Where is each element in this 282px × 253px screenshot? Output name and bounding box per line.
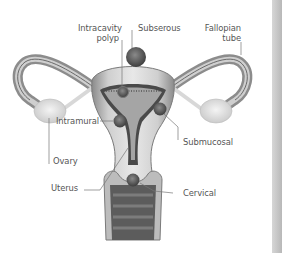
intracavity-polyp-fibroid	[118, 87, 129, 98]
anatomy-illustration: Intracavity polyp Subserous Fallopian tu…	[0, 0, 271, 253]
submucosal-fibroid	[154, 103, 167, 116]
label-subserous: Subserous	[138, 24, 181, 34]
label-intramural: Intramural	[56, 117, 99, 127]
label-intracavity-polyp: Intracavity polyp	[78, 24, 119, 43]
vagina	[110, 185, 156, 240]
label-fallopian-tube: Fallopian tube	[196, 24, 241, 43]
cervical-fibroid	[127, 174, 140, 187]
label-uterus: Uterus	[51, 184, 78, 194]
right-ovary	[200, 99, 232, 123]
intramural-fibroid	[114, 115, 127, 128]
label-ovary: Ovary	[53, 157, 78, 167]
label-fallopian-line2: tube	[196, 34, 241, 44]
subserous-fibroid	[126, 47, 146, 67]
side-scroll-bar	[272, 0, 282, 253]
label-intracavity-line2: polyp	[78, 34, 119, 44]
leader-submucosal	[164, 114, 178, 140]
label-submucosal: Submucosal	[183, 138, 233, 148]
label-cervical: Cervical	[183, 189, 216, 199]
